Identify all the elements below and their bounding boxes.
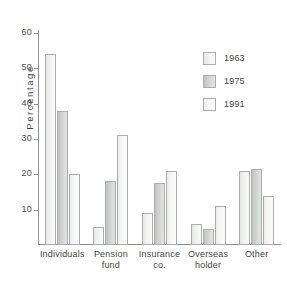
- x-axis-label: Other: [221, 249, 287, 260]
- y-tick-label: 30: [22, 133, 32, 144]
- legend-label: 1963: [224, 53, 245, 63]
- bar: [215, 206, 226, 245]
- y-tick-50: 50: [0, 68, 38, 69]
- bar: [191, 224, 202, 245]
- bar: [142, 213, 153, 245]
- y-tick-20: 20: [0, 174, 38, 175]
- bar: [239, 171, 250, 245]
- y-tick-label: 50: [22, 62, 32, 73]
- bar: [69, 174, 80, 245]
- bar-chart: Percentage 102030405060 IndividualsPensi…: [0, 0, 287, 295]
- legend-label: 1991: [224, 99, 245, 109]
- bar: [93, 227, 104, 245]
- bar: [105, 181, 116, 245]
- bar: [154, 183, 165, 245]
- bar: [251, 169, 262, 245]
- bar: [117, 135, 128, 245]
- bar: [203, 229, 214, 245]
- bar: [263, 196, 274, 245]
- y-tick-40: 40: [0, 104, 38, 105]
- legend-swatch: [203, 52, 216, 65]
- y-tick-label: 40: [22, 98, 32, 109]
- y-tick-60: 60: [0, 33, 38, 34]
- bar: [57, 111, 68, 245]
- bar: [166, 171, 177, 245]
- bar: [45, 54, 56, 245]
- y-tick-label: 20: [22, 168, 32, 179]
- y-tick-30: 30: [0, 139, 38, 140]
- y-tick-10: 10: [0, 210, 38, 211]
- legend-swatch: [203, 75, 216, 88]
- y-tick-label: 60: [22, 27, 32, 38]
- legend-label: 1975: [224, 76, 245, 86]
- legend-swatch: [203, 98, 216, 111]
- y-tick-label: 10: [22, 204, 32, 215]
